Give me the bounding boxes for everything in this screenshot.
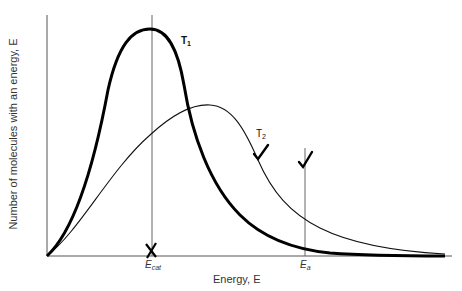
t1-label: T1: [181, 35, 191, 47]
t2-label: T2: [256, 128, 266, 140]
y-axis-label: Number of molecules with an energy, E: [7, 14, 19, 254]
t2-curve: [47, 105, 445, 256]
check-icon-t2: [254, 145, 268, 159]
t1-curve: [47, 29, 445, 256]
plot-area: [0, 0, 462, 291]
ea-label: Ea: [300, 259, 311, 271]
x-axis-label: Energy, E: [213, 273, 261, 285]
ecat-label: Ecat: [145, 259, 161, 271]
maxwell-boltzmann-diagram: Number of molecules with an energy, E En…: [0, 0, 462, 291]
